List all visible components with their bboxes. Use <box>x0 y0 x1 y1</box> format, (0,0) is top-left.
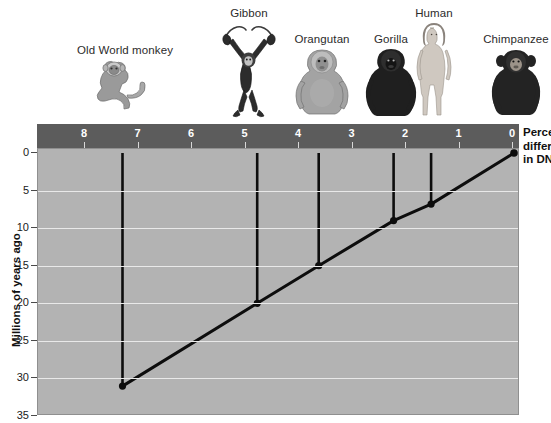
old-world-monkey-illustration <box>92 58 158 110</box>
y-tick-0: 0 <box>23 146 29 158</box>
x-tick-0: 0 <box>509 127 515 139</box>
gibbon-illustration <box>218 20 280 120</box>
gridline-30 <box>38 378 518 379</box>
y-axis-title: Millions of years ago <box>10 190 22 390</box>
gridline-10 <box>38 228 518 229</box>
x-tick-7: 7 <box>134 127 140 139</box>
species-label-old-world-monkey: Old World monkey <box>77 44 173 56</box>
figure-root: Old World monkey Gibbon <box>0 0 551 423</box>
species-label-human: Human <box>415 7 453 19</box>
x-tick-5: 5 <box>241 127 247 139</box>
x-tick-2: 2 <box>402 127 408 139</box>
gridline-25 <box>38 341 518 342</box>
plot-wrapper: 8 7 6 5 4 3 2 1 0 <box>37 124 519 415</box>
x-tick-8: 8 <box>81 127 87 139</box>
species-label-chimpanzee: Chimpanzee <box>483 33 549 45</box>
species-label-gorilla: Gorilla <box>374 33 408 45</box>
plot-area <box>37 148 519 415</box>
y-tick-15: 15 <box>17 259 29 271</box>
y-axis: Millions of years ago 0 5 10 15 20 25 30… <box>0 124 37 415</box>
gorilla-illustration <box>365 47 417 117</box>
gridline-15 <box>38 266 518 267</box>
chimpanzee-illustration <box>490 47 542 117</box>
y-tick-10: 10 <box>17 221 29 233</box>
gridline-20 <box>38 303 518 304</box>
branch-point-gorilla <box>390 217 397 224</box>
human-illustration <box>414 22 454 118</box>
x-tick-6: 6 <box>188 127 194 139</box>
x-axis-header: 8 7 6 5 4 3 2 1 0 <box>37 124 519 148</box>
orangutan-illustration <box>295 47 349 117</box>
branch-point-human <box>428 201 435 208</box>
y-tick-35: 35 <box>17 409 29 421</box>
y-tick-20: 20 <box>17 296 29 308</box>
species-label-orangutan: Orangutan <box>294 33 349 45</box>
x-tick-1: 1 <box>455 127 461 139</box>
y-tick-25: 25 <box>17 334 29 346</box>
x-axis-title: Percent difference in DNA <box>523 126 551 167</box>
y-tick-5: 5 <box>23 184 29 196</box>
phylogeny-tree <box>38 149 519 415</box>
x-axis-title-line-2: difference <box>523 140 551 154</box>
species-illustration-band: Old World monkey Gibbon <box>0 0 551 124</box>
species-label-gibbon: Gibbon <box>230 7 268 19</box>
x-tick-4: 4 <box>295 127 301 139</box>
y-tick-30: 30 <box>17 371 29 383</box>
gridline-5 <box>38 191 518 192</box>
x-axis-title-line-3: in DNA <box>523 153 551 167</box>
x-axis-title-line-1: Percent <box>523 126 551 140</box>
branch-point-old-world-monkey <box>119 383 126 390</box>
x-tick-3: 3 <box>348 127 354 139</box>
branch-point-chimpanzee <box>510 149 518 157</box>
